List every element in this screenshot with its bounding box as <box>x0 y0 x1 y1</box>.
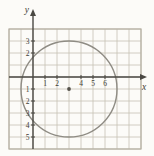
x-tick-label: 5 <box>91 79 95 88</box>
x-axis-letter: x <box>141 82 147 92</box>
y-tick-label: 1 <box>26 85 30 94</box>
y-axis-letter: y <box>24 5 30 15</box>
y-tick-label: 3 <box>26 109 30 118</box>
y-tick-label: 4 <box>26 121 30 130</box>
y-tick-label: 2 <box>26 97 30 106</box>
circle-graph-figure: 124563212345yx <box>0 0 154 156</box>
x-tick-label: 2 <box>55 79 59 88</box>
y-tick-label: 5 <box>26 133 30 142</box>
y-tick-label: 3 <box>26 37 30 46</box>
y-axis-arrowhead <box>30 9 36 16</box>
x-tick-label: 6 <box>103 79 107 88</box>
circle-center-dot <box>67 87 71 91</box>
y-tick-label: 2 <box>26 49 30 58</box>
x-tick-label: 4 <box>79 79 83 88</box>
coordinate-plane-svg: 124563212345yx <box>0 0 154 156</box>
x-tick-label: 1 <box>43 79 47 88</box>
x-axis-arrowhead <box>140 74 147 80</box>
